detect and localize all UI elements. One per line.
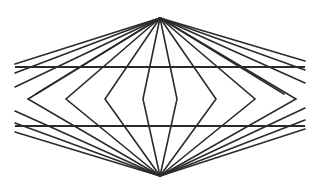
illusion-figure	[0, 0, 320, 188]
bottom-fan-line	[160, 120, 305, 176]
bottom-fan-line	[15, 123, 160, 176]
illusion-diagram	[0, 0, 320, 188]
top-fan-line	[15, 18, 160, 64]
bottom-fan-line	[160, 129, 305, 176]
chevron-line	[143, 18, 160, 176]
top-fan-line	[15, 18, 160, 73]
top-fan-line	[160, 18, 305, 61]
top-fan-line	[15, 18, 160, 87]
bottom-fan-line	[15, 111, 160, 176]
chevron-line	[160, 18, 177, 176]
bottom-fan-line	[15, 132, 160, 176]
